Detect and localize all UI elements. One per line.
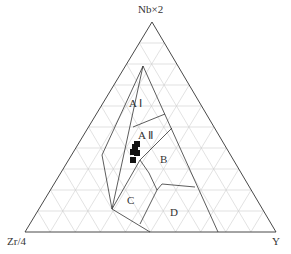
sample-marker (134, 150, 140, 156)
boundary-c-bottom (112, 209, 150, 232)
region-label-ai: A Ⅰ (129, 98, 142, 109)
grid-line (89, 127, 151, 232)
grid-line (63, 169, 100, 232)
region-label-d: D (170, 207, 178, 218)
ternary-diagram (0, 0, 291, 254)
boundary-a-outer-right (143, 66, 218, 232)
boundary-c-d (140, 190, 157, 224)
grid-line (38, 211, 50, 232)
grid-line (151, 127, 215, 232)
grid-line (201, 169, 239, 232)
boundary-b-d (157, 184, 195, 190)
boundary-b-c (140, 160, 157, 190)
region-label-aii: A Ⅱ (138, 130, 153, 141)
region-label-c: C (127, 195, 134, 206)
grid-line (114, 85, 201, 232)
boundary-a-outer-left (102, 66, 143, 209)
region-label-b: B (160, 154, 167, 165)
sample-marker (130, 157, 136, 163)
vertex-label-left: Zr/4 (7, 236, 26, 247)
grid-line (251, 211, 264, 232)
sample-points (130, 141, 140, 163)
vertex-label-right: Y (272, 236, 280, 247)
vertex-label-top: Nb×2 (138, 4, 163, 15)
grid-line (139, 43, 251, 232)
